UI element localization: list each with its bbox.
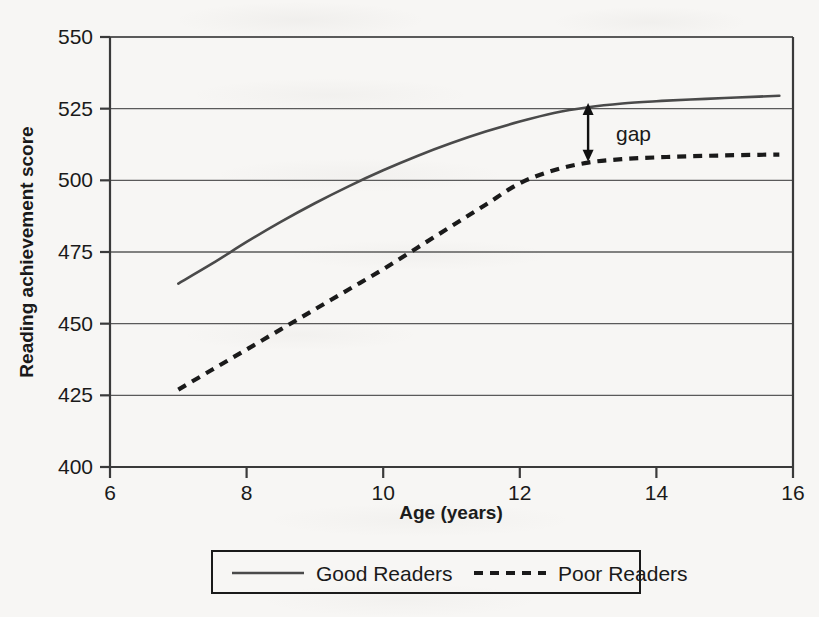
- y-tick-label: 475: [58, 240, 93, 263]
- x-tick-label: 8: [241, 481, 253, 504]
- x-tick-label: 16: [781, 481, 804, 504]
- y-tick-label: 500: [58, 168, 93, 191]
- y-axis-ticks: [100, 37, 110, 467]
- legend-items: Good ReadersPoor Readers: [232, 562, 688, 585]
- y-tick-label: 450: [58, 312, 93, 335]
- y-tick-label: 425: [58, 383, 93, 406]
- reading-achievement-line-chart: 400425450475500525550 6810121416 Reading…: [0, 0, 819, 617]
- x-axis-title: Age (years): [399, 502, 503, 523]
- y-axis-tick-labels: 400425450475500525550: [58, 25, 93, 478]
- gap-annotation-label: gap: [616, 122, 651, 145]
- series-line-good-readers: [178, 96, 779, 284]
- x-tick-label: 12: [508, 481, 531, 504]
- x-tick-label: 6: [104, 481, 116, 504]
- x-axis-tick-labels: 6810121416: [104, 481, 805, 504]
- gap-annotation: gap: [583, 103, 651, 162]
- y-tick-label: 400: [58, 455, 93, 478]
- x-tick-label: 10: [372, 481, 395, 504]
- chart-figure: 400425450475500525550 6810121416 Reading…: [0, 0, 819, 617]
- data-series: [178, 96, 779, 390]
- y-tick-label: 550: [58, 25, 93, 48]
- series-line-poor-readers: [178, 155, 779, 390]
- y-tick-label: 525: [58, 97, 93, 120]
- legend-label-poor-readers: Poor Readers: [558, 562, 688, 585]
- legend-label-good-readers: Good Readers: [316, 562, 453, 585]
- gridlines: [110, 37, 793, 467]
- y-axis-title: Reading achievement score: [16, 126, 37, 377]
- legend: Good ReadersPoor Readers: [212, 551, 688, 593]
- gap-arrow-head-down: [583, 150, 594, 162]
- x-tick-label: 14: [645, 481, 669, 504]
- x-axis-ticks: [110, 467, 793, 478]
